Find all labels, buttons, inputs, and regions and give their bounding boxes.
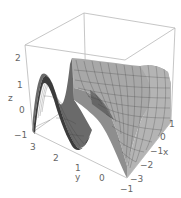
y-tick: −1	[120, 184, 133, 194]
z-axis-label: z	[8, 93, 13, 103]
x-tick: −3	[130, 174, 143, 184]
z-tick: 2	[15, 53, 21, 63]
y-tick: 0	[99, 173, 105, 183]
y-axis-label: y	[75, 172, 81, 182]
x-axis-label: x	[163, 147, 169, 157]
x-tick: 1	[169, 119, 175, 129]
z-tick: 0	[19, 105, 25, 115]
surface-plot: 2 1 0 −1 z 3 2 1 0 −1 y 1 0 −1 −2 −3 x	[0, 0, 181, 198]
x-tick: −1	[150, 146, 163, 156]
z-tick: −1	[14, 130, 27, 140]
z-axis: 2 1 0 −1 z	[8, 53, 27, 140]
y-tick: 2	[53, 153, 59, 163]
z-tick: 1	[17, 80, 23, 90]
x-tick: 0	[160, 132, 166, 142]
y-tick: 3	[30, 142, 36, 152]
x-tick: −2	[140, 160, 153, 170]
